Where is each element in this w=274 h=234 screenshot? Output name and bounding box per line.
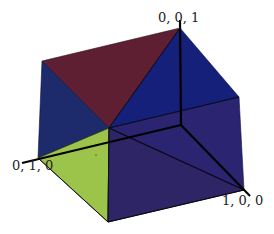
x-axis-label: 1, 0, 0 — [222, 193, 263, 208]
cube-diagram: 0, 0, 1 0, 1, 0 1, 0, 0 — [0, 0, 274, 234]
z-axis — [180, 20, 181, 125]
z-axis-label: 0, 0, 1 — [158, 10, 199, 25]
y-axis-label: 0, 1, 0 — [12, 158, 53, 173]
marker-dot — [95, 154, 97, 156]
